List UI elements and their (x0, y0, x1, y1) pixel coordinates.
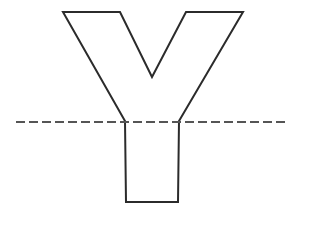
letter-y-outline (63, 12, 243, 202)
y-shape-diagram (0, 0, 314, 240)
